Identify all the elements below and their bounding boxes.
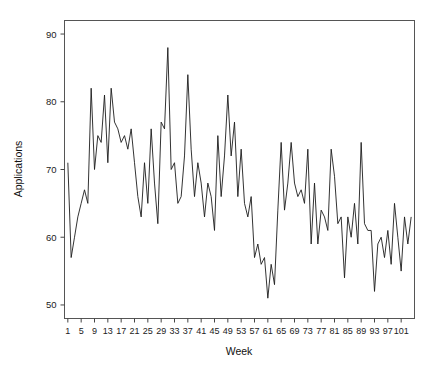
x-tick-label: 17 (116, 326, 126, 336)
x-axis-title: Week (226, 345, 253, 357)
chart-container: 5060708090 15913172125293337414549535761… (0, 0, 437, 372)
x-tick-label: 25 (143, 326, 153, 336)
x-tick-label: 9 (92, 326, 97, 336)
x-tick-label: 89 (356, 326, 366, 336)
y-tick-label: 90 (46, 29, 57, 40)
x-tick-label: 5 (79, 326, 84, 336)
x-tick-label: 85 (343, 326, 353, 336)
x-tick-label: 93 (369, 326, 379, 336)
y-tick-label: 60 (46, 232, 57, 243)
x-tick-label: 61 (263, 326, 273, 336)
y-tick-label: 80 (46, 96, 57, 107)
x-tick-label: 13 (103, 326, 113, 336)
x-tick-label: 45 (209, 326, 219, 336)
x-tick-label: 1 (65, 326, 70, 336)
y-axis-title: Applications (12, 141, 24, 198)
x-tick-label: 57 (249, 326, 259, 336)
x-tick-label: 33 (169, 326, 179, 336)
applications-line-series (68, 48, 411, 299)
x-axis-ticks: 1591317212529333741454953576165697377818… (65, 319, 408, 336)
x-tick-label: 41 (196, 326, 206, 336)
x-tick-label: 29 (156, 326, 166, 336)
line-chart: 5060708090 15913172125293337414549535761… (0, 0, 437, 372)
x-tick-label: 21 (129, 326, 139, 336)
y-axis-ticks: 5060708090 (46, 29, 65, 311)
x-tick-label: 53 (236, 326, 246, 336)
x-tick-label: 69 (289, 326, 299, 336)
x-tick-label: 77 (316, 326, 326, 336)
x-tick-label: 97 (383, 326, 393, 336)
y-tick-label: 50 (46, 299, 57, 310)
x-tick-label: 81 (329, 326, 339, 336)
x-tick-label: 37 (183, 326, 193, 336)
x-tick-label: 101 (394, 326, 409, 336)
x-tick-label: 49 (223, 326, 233, 336)
x-tick-label: 65 (276, 326, 286, 336)
x-tick-label: 73 (303, 326, 313, 336)
y-tick-label: 70 (46, 164, 57, 175)
